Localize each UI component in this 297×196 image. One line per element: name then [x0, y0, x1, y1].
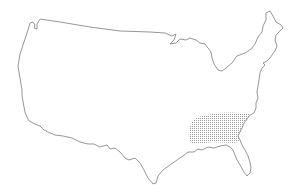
us-map [0, 0, 297, 196]
us-outline [18, 11, 283, 184]
